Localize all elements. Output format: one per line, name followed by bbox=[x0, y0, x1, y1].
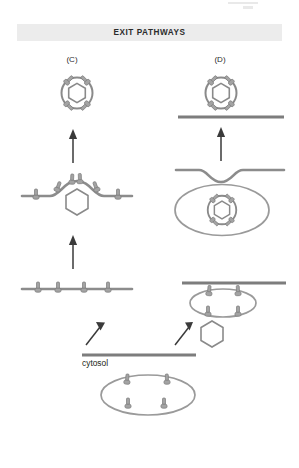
diagonal-arrow-left bbox=[86, 322, 105, 345]
panel-d-vacuole-with-virion bbox=[175, 185, 269, 236]
panel-c-released-virion bbox=[62, 74, 93, 111]
exit-pathways-figure: EXIT PATHWAYS (C) (D) cytosol bbox=[0, 0, 299, 468]
panel-d-released-virion bbox=[206, 74, 237, 111]
cytosol-vesicle bbox=[101, 374, 195, 415]
panel-d-free-capsid bbox=[201, 321, 223, 347]
panel-c-arrow-upper bbox=[69, 129, 77, 163]
panel-c-budding-membrane bbox=[22, 173, 132, 215]
panel-c-flat-membrane bbox=[22, 282, 132, 292]
panel-d-invaginated-membrane bbox=[176, 170, 284, 182]
panel-d-vesicle-with-spikes bbox=[190, 285, 256, 317]
panel-d-arrow bbox=[217, 127, 225, 161]
diagonal-arrow-right bbox=[175, 322, 193, 345]
scan-artifact bbox=[228, 2, 258, 9]
panel-c-arrow-lower bbox=[69, 235, 77, 269]
